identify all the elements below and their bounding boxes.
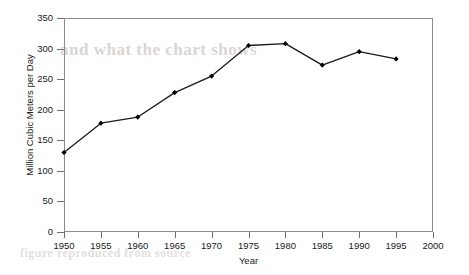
series-line [64,44,396,153]
chart-figure: and what the chart shows figure reproduc… [0,0,469,275]
data-point-marker [283,41,288,46]
data-point-marker [357,49,362,54]
series-markers [61,41,398,155]
x-axis-title: Year [64,256,433,266]
data-point-marker [394,56,399,61]
data-point-marker [320,62,325,67]
data-series-layer [0,0,469,275]
y-axis-title: Million Cubic Meters per Day [25,15,35,215]
